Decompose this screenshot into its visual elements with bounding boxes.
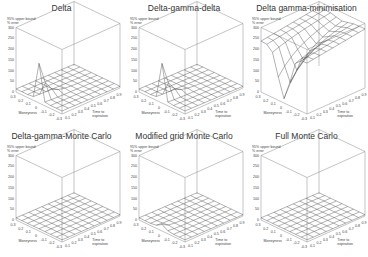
surface-plot: 30025020015010050095% upper bound% error… [123, 0, 245, 128]
z-tick-label: 200 [131, 175, 137, 179]
y-tick-label: 0.1 [65, 116, 70, 120]
z-tick-label: 200 [8, 47, 14, 51]
y-tick-label: 0.7 [349, 99, 354, 103]
y-axis-label: expiration [92, 114, 108, 118]
y-tick-label: 0.5 [214, 104, 219, 108]
x-tick-label: -0.2 [171, 113, 177, 117]
z-tick-label: 150 [8, 186, 14, 190]
z-tick-label: 50 [133, 79, 137, 83]
z-tick-label: 50 [255, 207, 259, 211]
x-tick-label: 0.2 [18, 227, 23, 231]
z-tick-label: 100 [131, 69, 137, 73]
z-tick-label: 50 [133, 207, 137, 211]
z-axis-label: % error [252, 149, 265, 153]
y-tick-label: 0.8 [233, 224, 238, 228]
z-axis-label: % error [252, 21, 265, 25]
y-axis-label: expiration [215, 242, 231, 246]
y-tick-label: 0.3 [323, 110, 328, 114]
surface-mesh [16, 193, 120, 240]
y-tick-label: 0.6 [342, 102, 347, 106]
x-tick-label: -0.1 [286, 110, 292, 114]
y-tick-label: 0.9 [240, 93, 245, 97]
y-tick-label: 0.3 [78, 238, 83, 242]
y-tick-label: 0.5 [336, 104, 341, 108]
x-tick-label: 0.2 [18, 99, 23, 103]
x-tick-label: -0.2 [293, 113, 299, 117]
z-tick-label: 150 [8, 58, 14, 62]
x-tick-label: 0.2 [263, 227, 268, 231]
surface-mesh [16, 63, 120, 111]
x-tick-label: -0.3 [301, 117, 307, 121]
z-tick-label: 100 [253, 197, 259, 201]
y-tick-label: 0.1 [65, 244, 70, 248]
y-tick-label: 0.2 [194, 241, 199, 245]
z-axis-label: % error [7, 21, 20, 25]
x-tick-label: 0.1 [271, 102, 276, 106]
x-tick-label: -0.1 [41, 238, 47, 242]
z-tick-label: 0 [12, 90, 14, 94]
z-tick-label: 0 [12, 218, 14, 222]
x-axis-label: Moneyness [18, 239, 37, 243]
z-tick-label: 250 [8, 164, 14, 168]
y-tick-label: 0.2 [316, 241, 321, 245]
z-tick-label: 300 [8, 26, 14, 30]
z-tick-label: 200 [131, 47, 137, 51]
y-tick-label: 0.6 [97, 102, 102, 106]
z-axis-label: % error [130, 21, 143, 25]
z-tick-label: 50 [255, 79, 259, 83]
surface-plot: 30025020015010050095% upper bound% error… [0, 0, 123, 128]
z-tick-label: 300 [131, 154, 137, 158]
z-tick-label: 200 [8, 175, 14, 179]
z-tick-label: 300 [8, 154, 14, 158]
x-tick-label: 0 [280, 106, 282, 110]
y-axis-label: expiration [215, 114, 231, 118]
y-tick-label: 0.2 [71, 241, 76, 245]
x-tick-label: 0.3 [256, 223, 261, 227]
surface-mesh [139, 193, 243, 240]
z-tick-label: 0 [257, 90, 259, 94]
x-axis-label: Moneyness [141, 111, 160, 115]
y-tick-label: 0.5 [91, 232, 96, 236]
y-tick-label: 0.1 [310, 116, 315, 120]
z-tick-label: 300 [131, 26, 137, 30]
y-tick-label: 0.2 [316, 113, 321, 117]
surface-plot: 30025020015010050095% upper bound% error… [245, 0, 368, 128]
y-tick-label: 0.6 [97, 230, 102, 234]
x-tick-label: -0.3 [179, 117, 185, 121]
y-tick-label: 0.8 [110, 96, 115, 100]
surface-mesh [139, 63, 243, 111]
x-tick-label: -0.1 [286, 238, 292, 242]
z-tick-label: 300 [253, 154, 259, 158]
x-tick-label: -0.2 [171, 241, 177, 245]
y-tick-label: 0.6 [220, 102, 225, 106]
x-tick-label: 0 [280, 234, 282, 238]
x-tick-label: 0.3 [11, 95, 16, 99]
y-tick-label: 0.2 [194, 113, 199, 117]
x-tick-label: 0.1 [26, 230, 31, 234]
x-tick-label: 0.1 [271, 230, 276, 234]
y-tick-label: 0.8 [233, 96, 238, 100]
x-tick-label: 0.1 [149, 102, 154, 106]
y-tick-label: 0.5 [336, 232, 341, 236]
panel-modified-grid-monte-carlo: Modified grid Monte Carlo 30025020015010… [123, 128, 245, 257]
y-tick-label: 0.7 [227, 99, 232, 103]
y-tick-label: 0.4 [207, 107, 212, 111]
x-tick-label: 0.3 [256, 95, 261, 99]
x-tick-label: -0.1 [41, 110, 47, 114]
y-tick-label: 0.9 [117, 221, 122, 225]
z-tick-label: 150 [131, 58, 137, 62]
y-tick-label: 0.4 [207, 235, 212, 239]
z-tick-label: 250 [131, 164, 137, 168]
x-tick-label: 0 [158, 106, 160, 110]
z-tick-label: 150 [131, 186, 137, 190]
x-tick-label: 0.1 [26, 102, 31, 106]
y-tick-label: 0.4 [84, 235, 89, 239]
y-tick-label: 0.2 [71, 113, 76, 117]
x-axis-label: Moneyness [141, 239, 160, 243]
z-tick-label: 0 [135, 218, 137, 222]
y-tick-label: 0.9 [240, 221, 245, 225]
x-tick-label: 0.2 [263, 99, 268, 103]
surface-plot: 30025020015010050095% upper bound% error… [0, 128, 123, 257]
z-tick-label: 100 [8, 197, 14, 201]
z-tick-label: 100 [131, 197, 137, 201]
